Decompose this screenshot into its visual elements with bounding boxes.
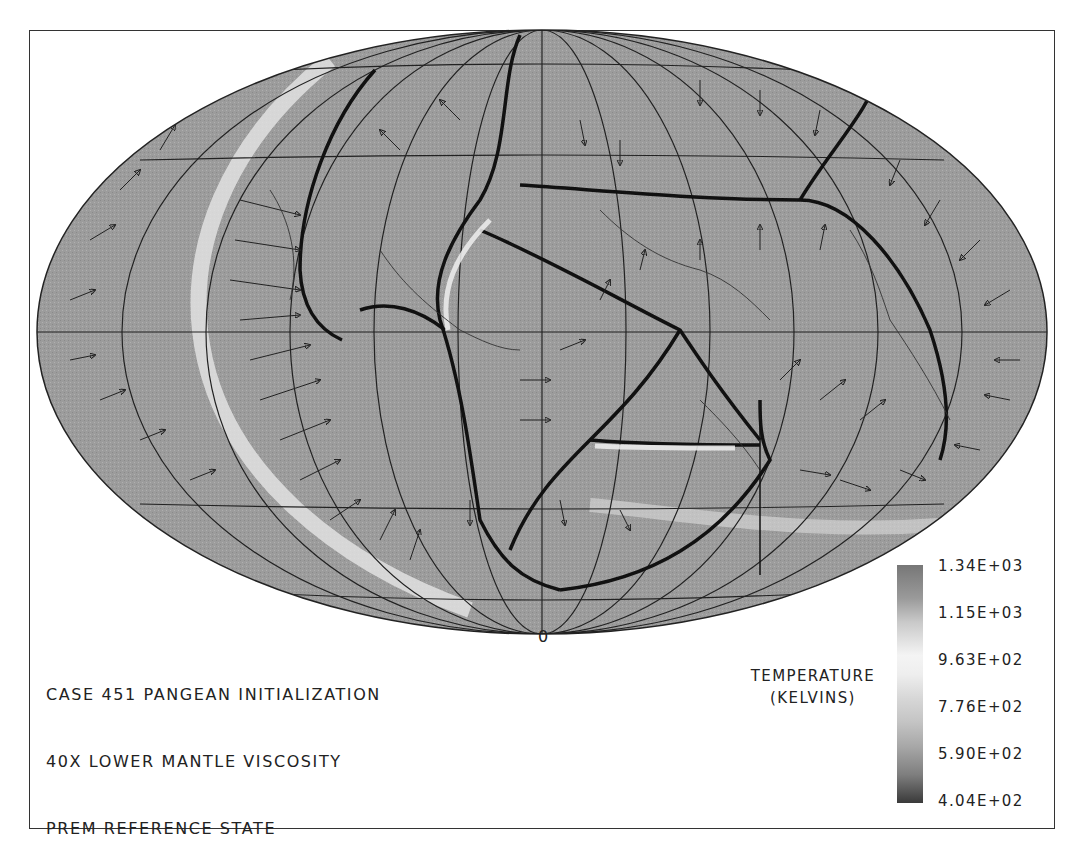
- legend-title-unit: (KELVINS): [728, 687, 898, 709]
- viscosity-line: 40X LOWER MANTLE VISCOSITY: [46, 751, 432, 773]
- info-block: CASE 451 PANGEAN INITIALIZATION 40X LOWE…: [46, 640, 432, 867]
- reference-state-line: PREM REFERENCE STATE: [46, 818, 432, 840]
- colorbar-tick-max: 1.34E+03: [938, 557, 1024, 575]
- colorbar-tick: 1.15E+03: [938, 604, 1024, 622]
- colorbar-tick: 9.63E+02: [938, 651, 1024, 669]
- map-body: [37, 30, 1047, 634]
- temperature-colorbar: [897, 565, 923, 803]
- colorbar-tick: 5.90E+02: [938, 745, 1024, 763]
- colorbar-tick-min: 4.04E+02: [938, 792, 1024, 810]
- legend-title: TEMPERATURE (KELVINS): [728, 665, 898, 709]
- colorbar-tick: 7.76E+02: [938, 698, 1024, 716]
- central-meridian-label: 0: [538, 627, 548, 646]
- case-line: CASE 451 PANGEAN INITIALIZATION: [46, 684, 432, 706]
- legend-title-main: TEMPERATURE: [728, 665, 898, 687]
